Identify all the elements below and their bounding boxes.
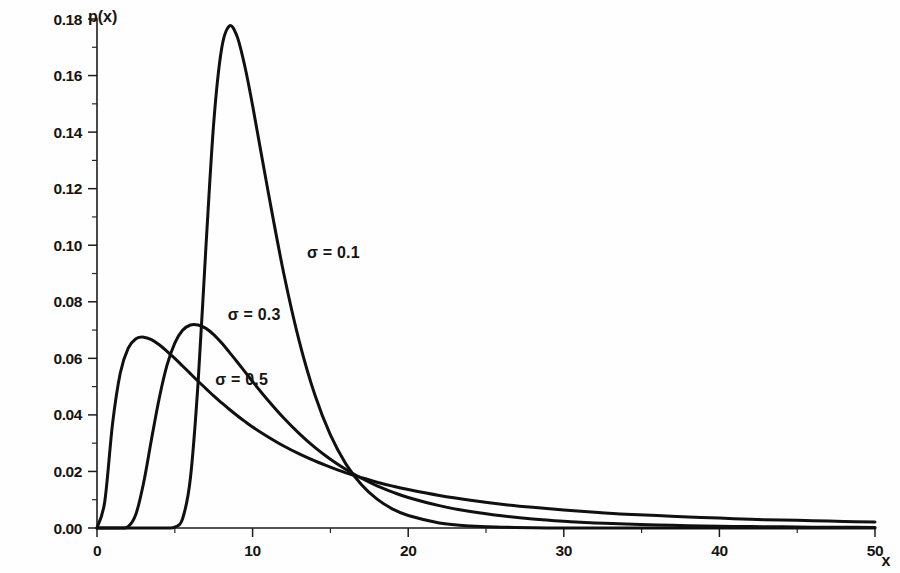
y-tick-label: 0.18 <box>53 11 82 28</box>
pdf-curve <box>97 337 875 528</box>
x-tick-label: 40 <box>711 542 727 559</box>
y-tick-label: 0.02 <box>53 463 82 480</box>
curve-group <box>97 26 875 529</box>
y-tick-label: 0.08 <box>53 293 82 310</box>
x-tick-label: 20 <box>400 542 416 559</box>
pdf-curve <box>97 324 875 528</box>
x-tick-label: 10 <box>244 542 260 559</box>
y-tick-label: 0.10 <box>53 237 82 254</box>
x-axis-title: x <box>882 552 891 569</box>
figure-canvas: 0.000.020.040.060.080.100.120.140.160.18… <box>0 0 900 573</box>
y-tick-label: 0.16 <box>53 67 82 84</box>
curve-label: σ = 0.3 <box>228 306 281 323</box>
x-tick-label: 30 <box>556 542 572 559</box>
y-axis-title: p(x) <box>88 8 117 25</box>
lognormal-pdf-chart: 0.000.020.040.060.080.100.120.140.160.18… <box>0 0 900 573</box>
x-axis: 01020304050 <box>93 528 883 559</box>
curve-annotations: σ = 0.1σ = 0.3σ = 0.5 <box>215 244 360 388</box>
y-axis: 0.000.020.040.060.080.100.120.140.160.18 <box>53 11 97 537</box>
y-tick-label: 0.06 <box>53 350 82 367</box>
y-tick-label: 0.04 <box>53 406 82 423</box>
pdf-curve <box>97 26 875 529</box>
y-tick-label: 0.12 <box>53 180 82 197</box>
x-tick-label: 0 <box>93 542 101 559</box>
curve-label: σ = 0.1 <box>307 244 360 261</box>
y-tick-label: 0.00 <box>53 520 82 537</box>
curve-label: σ = 0.5 <box>215 371 268 388</box>
y-tick-label: 0.14 <box>53 124 82 141</box>
